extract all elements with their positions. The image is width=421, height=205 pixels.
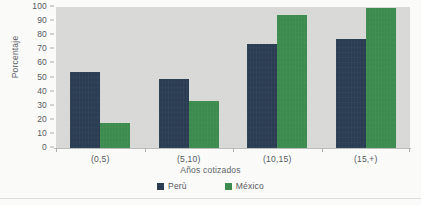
y-tick-label: 20 — [37, 114, 47, 124]
y-tick-mark — [50, 90, 54, 91]
y-tick-label: 10 — [37, 128, 47, 138]
y-tick-label: 0 — [42, 142, 47, 152]
legend-label: México — [236, 181, 264, 191]
y-tick-mark — [50, 48, 54, 49]
bar-group — [145, 7, 234, 148]
bottom-divider — [0, 198, 421, 199]
y-tick-label: 50 — [37, 72, 47, 82]
x-tick-label: (10,15) — [233, 148, 322, 164]
x-tick-mark — [56, 148, 57, 152]
bar-mxico-0 — [100, 123, 130, 148]
bar-groups — [56, 7, 410, 148]
bar-per-3 — [336, 39, 366, 148]
bar-per-2 — [247, 44, 277, 148]
y-tick-mark — [50, 104, 54, 105]
y-tick-label: 90 — [37, 15, 47, 25]
x-tick-mark — [233, 148, 234, 152]
bar-group — [56, 7, 145, 148]
bar-per-1 — [159, 79, 189, 148]
bar-per-0 — [70, 72, 100, 148]
y-tick-label: 30 — [37, 100, 47, 110]
y-tick-mark — [50, 6, 54, 7]
y-tick-mark — [50, 76, 54, 77]
x-axis-title: Años cotizados — [0, 165, 421, 175]
x-tick-mark — [145, 148, 146, 152]
legend-swatch-icon — [225, 183, 232, 190]
bar-group — [233, 7, 322, 148]
y-tick-label: 100 — [32, 1, 47, 11]
legend-label: Perù — [168, 181, 187, 191]
chart-figure: Porcentaje 0102030405060708090100 (0,5)(… — [0, 0, 421, 205]
bar-mxico-3 — [366, 8, 396, 148]
x-tick-text: (0,5) — [91, 154, 109, 164]
x-tick-text: (15,+) — [354, 154, 378, 164]
y-tick-label: 60 — [37, 57, 47, 67]
y-tick-mark — [50, 118, 54, 119]
legend-swatch-icon — [157, 183, 164, 190]
y-tick-label: 80 — [37, 29, 47, 39]
x-tick-text: (5,10) — [177, 154, 200, 164]
legend-item-per[interactable]: Perù — [157, 181, 187, 191]
legend-item-mxico[interactable]: México — [225, 181, 264, 191]
x-axis-tick-labels: (0,5)(5,10)(10,15)(15,+) — [56, 148, 410, 164]
x-tick-label: (0,5) — [56, 148, 145, 164]
y-tick-label: 40 — [37, 86, 47, 96]
y-tick-mark — [50, 34, 54, 35]
chart-legend: PerùMéxico — [0, 181, 421, 191]
y-tick-label: 70 — [37, 43, 47, 53]
x-tick-mark — [409, 148, 410, 152]
bar-mxico-1 — [189, 101, 219, 148]
y-tick-mark — [50, 132, 54, 133]
y-tick-mark — [50, 20, 54, 21]
y-tick-mark — [50, 62, 54, 63]
x-tick-text: (10,15) — [263, 154, 291, 164]
bar-group — [322, 7, 411, 148]
y-axis: 0102030405060708090100 — [18, 6, 54, 148]
x-tick-label: (15,+) — [322, 148, 411, 164]
bar-mxico-2 — [277, 15, 307, 148]
x-tick-label: (5,10) — [145, 148, 234, 164]
x-tick-mark — [322, 148, 323, 152]
